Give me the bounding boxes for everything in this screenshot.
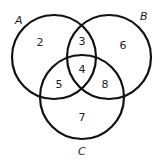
set-b-label: B xyxy=(140,10,148,23)
region-a-b-only: 3 xyxy=(79,35,86,48)
region-b-only: 6 xyxy=(120,39,127,52)
venn-diagram: A B C 2 3 6 4 5 8 7 xyxy=(0,0,161,160)
region-c-only: 7 xyxy=(79,111,86,124)
set-c-label: C xyxy=(78,145,86,158)
region-b-c-only: 8 xyxy=(102,78,109,91)
region-a-b-c: 4 xyxy=(79,63,86,76)
set-b-circle xyxy=(67,15,151,99)
region-a-c-only: 5 xyxy=(56,78,63,91)
set-a-label: A xyxy=(14,14,23,27)
region-a-only: 2 xyxy=(37,36,44,49)
set-a-circle xyxy=(12,15,96,99)
